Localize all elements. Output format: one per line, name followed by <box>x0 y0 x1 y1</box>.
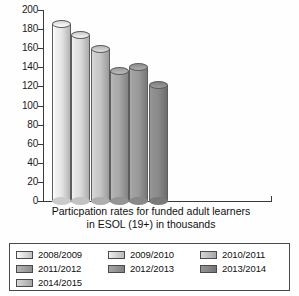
legend-item-label: 2014/2015 <box>38 278 82 288</box>
bar-body <box>149 85 168 201</box>
legend-swatch <box>16 265 33 273</box>
bar-cylinder <box>71 31 90 201</box>
legend-item: 2014/2015 <box>16 278 108 288</box>
legend-swatch <box>200 265 217 273</box>
legend-item: 2009/2010 <box>108 250 200 260</box>
bar-cylinder <box>52 20 71 201</box>
bar-cylinder <box>110 67 129 201</box>
legend-swatch <box>108 251 125 259</box>
bar-body <box>129 67 148 201</box>
chart-figure: 200180160140120100806040200 Particpation… <box>0 0 299 296</box>
bar-cylinder <box>129 63 148 201</box>
bar-series <box>0 0 299 232</box>
bar-body <box>52 24 71 201</box>
legend-swatch <box>200 251 217 259</box>
legend-item-label: 2012/2013 <box>130 264 174 274</box>
chart-caption: Particpation rates for funded adult lear… <box>20 205 282 231</box>
bar-bottom-ellipse <box>91 197 110 205</box>
chart-legend: 2008/20092009/20102010/20112011/20122012… <box>9 243 290 291</box>
bar-bottom-ellipse <box>71 197 90 205</box>
bar-bottom-ellipse <box>52 197 71 205</box>
bar-body <box>110 71 129 201</box>
bar-bottom-ellipse <box>110 197 129 205</box>
legend-item: 2010/2011 <box>200 250 292 260</box>
caption-line-1: Particpation rates for funded adult lear… <box>20 205 282 218</box>
legend-swatch <box>16 279 33 287</box>
legend-grid: 2008/20092009/20102010/20112011/20122012… <box>16 248 289 290</box>
plot-area: 200180160140120100806040200 <box>0 0 299 232</box>
bar-body <box>71 35 90 201</box>
bar-top-ellipse <box>149 81 168 89</box>
legend-item: 2008/2009 <box>16 250 108 260</box>
bar-cylinder <box>91 45 110 201</box>
legend-item: 2013/2014 <box>200 264 292 274</box>
bar-body <box>91 49 110 201</box>
legend-swatch <box>16 251 33 259</box>
bar-bottom-ellipse <box>129 197 148 205</box>
legend-item-label: 2009/2010 <box>130 250 174 260</box>
bar-cylinder <box>149 81 168 201</box>
legend-swatch <box>108 265 125 273</box>
bar-top-ellipse <box>129 63 148 71</box>
legend-item: 2011/2012 <box>16 264 108 274</box>
bar-bottom-ellipse <box>149 197 168 205</box>
legend-item-label: 2013/2014 <box>222 264 266 274</box>
legend-item-label: 2010/2011 <box>222 250 265 260</box>
caption-line-2: in ESOL (19+) in thousands <box>20 218 282 231</box>
legend-item: 2012/2013 <box>108 264 200 274</box>
legend-item-label: 2011/2012 <box>38 264 81 274</box>
legend-item-label: 2008/2009 <box>38 250 82 260</box>
bar-top-ellipse <box>52 20 71 28</box>
